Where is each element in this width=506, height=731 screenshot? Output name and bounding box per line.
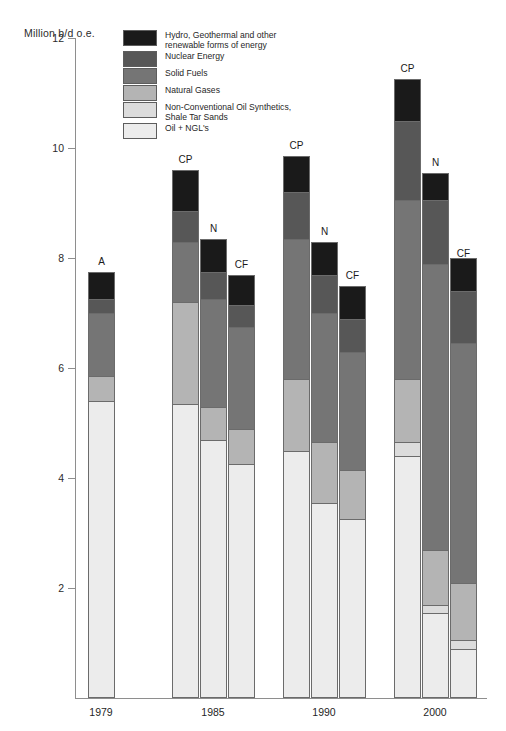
bar-scenario-label-2000-N: N	[416, 157, 456, 168]
bar-segment-noncon	[422, 605, 449, 613]
bar-segment-oil	[394, 456, 421, 698]
legend-item-oil: Oil + NGL's	[123, 123, 338, 139]
y-tick-mark-12	[68, 38, 76, 39]
bar-segment-hydro	[394, 79, 421, 120]
y-tick-label-12: 12	[24, 32, 64, 44]
y-tick-label-6: 6	[24, 362, 64, 374]
y-tick-label-8: 8	[24, 252, 64, 264]
x-axis-label-1990: 1990	[294, 706, 354, 718]
bar-scenario-label-1990-CF: CF	[333, 270, 373, 281]
bar-segment-oil	[228, 464, 255, 698]
bar-segment-solid	[394, 200, 421, 379]
bar-segment-gas	[88, 376, 115, 401]
bar-segment-solid	[200, 299, 227, 406]
bar-segment-hydro	[228, 275, 255, 305]
bar-segment-gas	[450, 583, 477, 641]
bar-segment-gas	[394, 379, 421, 442]
bar-segment-hydro	[88, 272, 115, 300]
legend-swatch-oil	[123, 123, 157, 139]
bar-segment-gas	[228, 429, 255, 465]
bar-segment-gas	[283, 379, 310, 451]
bar-2000-CP	[394, 79, 421, 698]
legend-label-hydro: Hydro, Geothermal and other renewable fo…	[165, 30, 276, 50]
bar-segment-solid	[311, 313, 338, 442]
legend-label-gas: Natural Gases	[165, 85, 220, 96]
bar-scenario-label-1985-CF: CF	[222, 259, 262, 270]
legend-swatch-solid	[123, 68, 157, 84]
bar-segment-oil	[339, 519, 366, 698]
y-tick-label-10: 10	[24, 142, 64, 154]
y-tick-mark-8	[68, 258, 76, 259]
bar-scenario-label-1990-N: N	[305, 226, 345, 237]
y-tick-mark-2	[68, 588, 76, 589]
legend-item-gas: Natural Gases	[123, 85, 338, 101]
y-tick-label-4: 4	[24, 472, 64, 484]
legend: Hydro, Geothermal and other renewable fo…	[123, 30, 338, 140]
legend-swatch-noncon	[123, 102, 157, 118]
bar-segment-solid	[422, 264, 449, 550]
x-axis-label-1985: 1985	[183, 706, 243, 718]
bar-segment-noncon	[394, 442, 421, 456]
chart-root: Million b/d o.e. 24681012 Hydro, Geother…	[0, 0, 506, 731]
legend-item-solid: Solid Fuels	[123, 68, 338, 84]
y-tick-mark-10	[68, 148, 76, 149]
bar-segment-solid	[450, 343, 477, 582]
legend-swatch-nuclear	[123, 51, 157, 67]
bar-1990-CF	[339, 286, 366, 699]
bar-segment-nuclear	[339, 319, 366, 352]
legend-label-noncon: Non-Conventional Oil Synthetics, Shale T…	[165, 102, 291, 122]
bar-segment-solid	[339, 352, 366, 470]
legend-item-hydro: Hydro, Geothermal and other renewable fo…	[123, 30, 338, 50]
bar-segment-gas	[422, 550, 449, 605]
bar-segment-gas	[172, 302, 199, 404]
bar-segment-gas	[339, 470, 366, 520]
bar-segment-solid	[172, 242, 199, 303]
bar-segment-solid	[88, 313, 115, 376]
bar-segment-solid	[228, 327, 255, 429]
bar-scenario-label-1979-A: A	[82, 256, 122, 267]
bar-1979-A	[88, 272, 115, 698]
bar-1985-CF	[228, 275, 255, 699]
bar-segment-hydro	[283, 156, 310, 192]
bar-segment-oil	[88, 401, 115, 698]
bar-segment-gas	[200, 407, 227, 440]
legend-item-noncon: Non-Conventional Oil Synthetics, Shale T…	[123, 102, 338, 122]
bar-1990-N	[311, 242, 338, 699]
bar-segment-nuclear	[200, 272, 227, 300]
bar-segment-nuclear	[228, 305, 255, 327]
bar-segment-oil	[450, 649, 477, 699]
bar-segment-oil	[283, 451, 310, 699]
x-axis-label-2000: 2000	[405, 706, 465, 718]
y-tick-mark-4	[68, 478, 76, 479]
bar-segment-hydro	[450, 258, 477, 291]
bar-scenario-label-1990-CP: CP	[277, 140, 317, 151]
x-axis-label-1979: 1979	[71, 706, 131, 718]
legend-label-solid: Solid Fuels	[165, 68, 208, 79]
bar-segment-oil	[200, 440, 227, 699]
bar-segment-oil	[172, 404, 199, 698]
legend-item-nuclear: Nuclear Energy	[123, 51, 338, 67]
bar-segment-hydro	[422, 173, 449, 201]
bar-segment-hydro	[172, 170, 199, 211]
bar-2000-CF	[450, 264, 477, 699]
y-tick-label-2: 2	[24, 582, 64, 594]
legend-label-nuclear: Nuclear Energy	[165, 51, 224, 62]
x-axis-line	[75, 698, 487, 699]
bar-scenario-label-1985-CP: CP	[166, 154, 206, 165]
bar-segment-solid	[283, 239, 310, 379]
legend-label-oil: Oil + NGL's	[165, 123, 209, 134]
bar-scenario-label-1985-N: N	[194, 223, 234, 234]
bar-scenario-label-2000-CF: CF	[444, 248, 484, 259]
bar-segment-oil	[311, 503, 338, 698]
legend-swatch-gas	[123, 85, 157, 101]
bar-segment-nuclear	[88, 299, 115, 313]
bar-1990-CP	[283, 156, 310, 698]
bar-segment-gas	[311, 442, 338, 503]
bar-segment-noncon	[450, 640, 477, 648]
bar-1985-N	[200, 239, 227, 698]
bar-segment-hydro	[339, 286, 366, 319]
legend-swatch-hydro	[123, 30, 157, 46]
bar-segment-nuclear	[450, 291, 477, 343]
bar-scenario-label-2000-CP: CP	[388, 63, 428, 74]
y-tick-mark-6	[68, 368, 76, 369]
